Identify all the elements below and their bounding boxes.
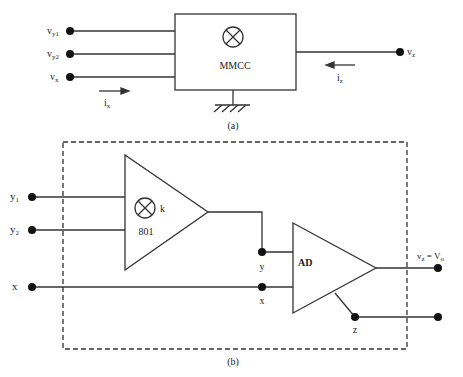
terminal-z-out <box>434 313 442 321</box>
caption-a: (a) <box>227 120 238 132</box>
node-z <box>351 313 359 321</box>
terminal-vy1 <box>66 27 74 35</box>
label-vx: vx <box>50 71 59 84</box>
node-x-label: x <box>260 295 265 306</box>
multiplier-icon <box>223 27 243 47</box>
terminal-vz-out <box>434 264 442 272</box>
wire-z <box>335 293 438 317</box>
label-y1: y1 <box>10 190 20 204</box>
terminal-vz <box>396 48 404 56</box>
ad-label: AD <box>298 257 312 268</box>
label-iz: iz <box>337 72 343 85</box>
wire-801-to-y <box>208 212 293 252</box>
circuit-diagram: vy1 vy2 vx vz ix iz MMCC (a) y1 y2 x k 8… <box>0 0 463 377</box>
multiplier-801-icon <box>135 198 155 218</box>
multiplier-801-label: 801 <box>139 226 154 237</box>
node-y <box>258 248 266 256</box>
ad-triangle <box>293 223 376 313</box>
mmcc-block <box>175 14 296 90</box>
terminal-y2 <box>28 226 36 234</box>
terminals <box>28 27 442 321</box>
label-vy1: vy1 <box>47 25 60 38</box>
caption-b: (b) <box>227 356 239 368</box>
node-z-label: z <box>353 324 358 335</box>
output-vz-vo-label: vz = Vo <box>417 251 445 263</box>
arrow-ix-head <box>121 88 129 94</box>
label-y2: y2 <box>10 223 20 237</box>
terminal-vx <box>66 73 74 81</box>
label-vz: vz <box>407 46 415 59</box>
ground-icon <box>214 90 250 112</box>
label-ix: ix <box>104 97 111 110</box>
mmcc-label: MMCC <box>219 60 250 71</box>
arrow-iz-head <box>326 62 334 68</box>
label-vy2: vy2 <box>47 48 60 61</box>
label-x: x <box>12 280 18 292</box>
terminal-x <box>28 283 36 291</box>
node-x <box>258 283 266 291</box>
terminal-vy2 <box>66 50 74 58</box>
gain-k-label: k <box>160 203 165 214</box>
multiplier-801-triangle <box>125 155 208 270</box>
node-y-label: y <box>260 261 265 272</box>
terminal-y1 <box>28 193 36 201</box>
